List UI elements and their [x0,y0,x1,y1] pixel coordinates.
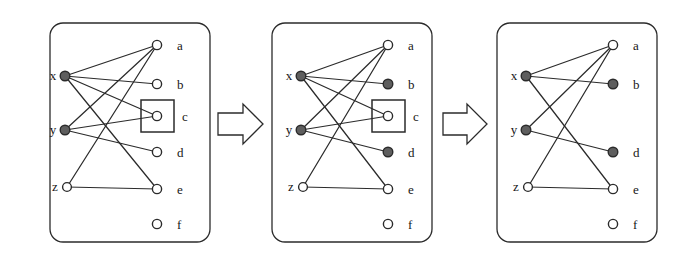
panel-2-node-b [383,79,393,89]
panel-1-node-c [152,111,161,120]
panel-2-node-a [383,40,392,49]
panel-2-node-c [383,111,392,120]
right-arrow-icon [218,104,263,144]
panel-1-label-x: x [50,68,57,83]
edge-x-b [526,76,613,84]
panel-1-node-z [63,183,72,192]
edge-x-a [526,45,613,76]
panel-2-node-y [296,125,306,135]
right-arrow-icon [443,104,487,144]
panel-2-node-f [383,219,392,228]
panel-2: x y z a b c d e f [272,23,432,242]
arrow-2 [443,104,487,144]
panel-3-label-x: x [511,68,518,83]
panel-1-label-y: y [50,122,57,137]
bipartite-graph-figure: x y z a b c d e f [0,0,690,264]
panel-1-node-x [60,71,70,81]
panel-3-label-e: e [633,182,639,197]
edge-x-e [526,76,613,189]
panel-1-label-c: c [182,109,188,124]
panel-2-node-z [299,183,308,192]
edge-x-b [301,76,388,84]
panel-2-label-d: d [408,145,415,160]
panel-3-node-x [521,71,531,81]
edge-z-e [528,187,613,189]
arrow-1 [218,104,263,144]
panel-1-label-e: e [177,182,183,197]
panel-2-frame [272,23,432,242]
panel-1-node-a [152,40,161,49]
panel-3-frame [497,23,657,242]
edge-z-e [67,187,157,189]
panel-3-node-d [608,147,618,157]
panel-2-label-x: x [286,68,293,83]
panel-3-edges [526,45,613,189]
panel-2-node-e [383,184,392,193]
panel-1-label-a: a [177,38,183,53]
edge-z-e [303,187,388,189]
panel-2-label-z: z [288,179,294,194]
panel-3-label-a: a [633,38,639,53]
panel-1-node-d [152,147,161,156]
panel-2-edges [301,45,388,189]
panel-1-label-z: z [52,179,58,194]
panel-2-node-d [383,147,393,157]
panel-2-label-y: y [286,122,293,137]
edge-x-a [301,45,388,76]
panel-3-label-f: f [633,217,638,232]
edge-x-a [65,45,157,76]
panel-3-node-y [521,125,531,135]
panel-3-node-a [608,40,617,49]
panel-1-node-y [60,125,70,135]
panel-1-edges [65,45,157,189]
panel-3-node-e [608,184,617,193]
panel-2-label-b: b [408,77,415,92]
panel-3-node-f [608,219,617,228]
panel-3: x y z a b d e f [497,23,657,242]
panel-2-label-a: a [408,38,414,53]
edge-x-c [65,76,157,116]
panel-1-node-e [152,184,161,193]
panel-3-label-y: y [511,122,518,137]
panel-3-label-b: b [633,77,640,92]
edge-x-b [65,76,157,84]
panel-3-label-z: z [513,179,519,194]
panel-2-label-c: c [413,109,419,124]
panel-1-label-d: d [177,145,184,160]
edge-x-c [301,76,388,116]
panel-3-label-d: d [633,145,640,160]
panel-1-node-f [152,219,161,228]
panel-1: x y z a b c d e f [50,23,210,242]
panel-1-label-b: b [177,77,184,92]
panel-1-label-f: f [177,217,182,232]
panel-2-node-x [296,71,306,81]
panel-2-label-e: e [408,182,414,197]
panel-3-node-z [524,183,533,192]
panel-1-node-b [152,79,161,88]
panel-2-label-f: f [408,217,413,232]
panel-3-node-b [608,79,618,89]
